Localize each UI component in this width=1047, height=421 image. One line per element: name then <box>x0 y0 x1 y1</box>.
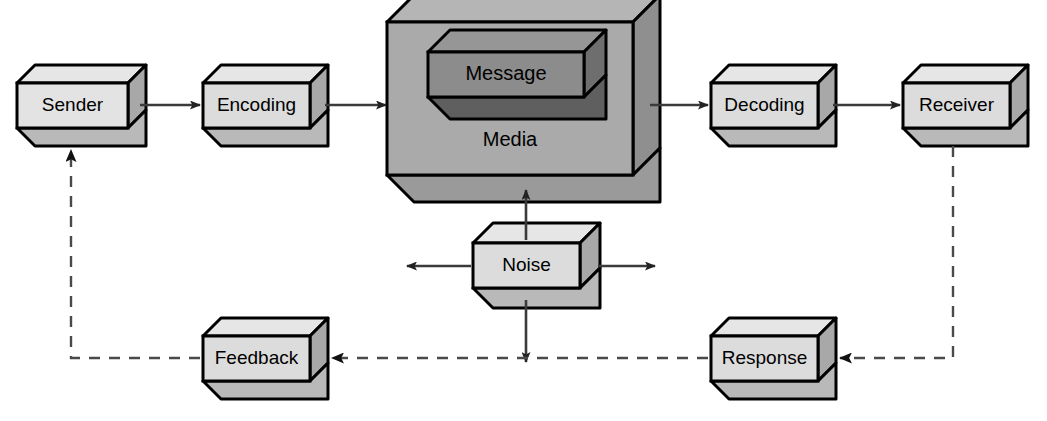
node-sender[interactable] <box>17 65 146 146</box>
sender-front-face <box>17 83 128 128</box>
node-message[interactable] <box>428 30 606 119</box>
dashed-receiver-to-response <box>840 146 953 358</box>
feedback-front-face <box>203 336 310 381</box>
dashed-feedback-to-sender <box>71 150 200 358</box>
node-decoding[interactable] <box>711 65 836 146</box>
message-top-face <box>428 30 606 52</box>
node-feedback[interactable] <box>203 318 328 399</box>
response-top-face <box>711 318 836 336</box>
decoding-front-face <box>711 83 818 128</box>
media-side-face <box>633 0 660 175</box>
node-receiver[interactable] <box>903 65 1028 146</box>
encoding-front-face <box>203 83 310 128</box>
node-noise[interactable] <box>473 223 600 308</box>
diagram-svg <box>0 0 1047 421</box>
response-front-face <box>711 336 818 381</box>
sender-top-face <box>17 65 146 83</box>
receiver-front-face <box>903 83 1010 128</box>
decoding-top-face <box>711 65 836 83</box>
media-top-face <box>387 0 660 22</box>
encoding-top-face <box>203 65 328 83</box>
noise-front-face <box>473 243 580 288</box>
receiver-top-face <box>903 65 1028 83</box>
message-front-face <box>428 52 584 97</box>
feedback-top-face <box>203 318 328 336</box>
node-encoding[interactable] <box>203 65 328 146</box>
node-response[interactable] <box>711 318 836 399</box>
diagram-canvas: Sender Encoding Message Media Decoding R… <box>0 0 1047 421</box>
